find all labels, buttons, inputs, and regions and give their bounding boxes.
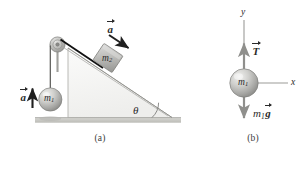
label-tension: T <box>252 46 260 57</box>
pulley <box>50 37 65 52</box>
label-mass-m1: m1 <box>44 94 54 104</box>
label-acceleration-m1: a <box>20 92 27 103</box>
label-acceleration-m2: a <box>107 24 114 35</box>
label-angle-theta: θ <box>133 105 138 116</box>
label-mass-m2: m2 <box>102 54 112 64</box>
acceleration-arrow-m2 <box>109 35 129 48</box>
label-axis-y: y <box>241 8 245 18</box>
physics-figure <box>0 0 308 169</box>
panel-b <box>230 20 288 118</box>
panel-a <box>33 35 182 123</box>
caption-panel-b: (b) <box>198 133 308 143</box>
caption-panel-a: (a) <box>0 133 200 143</box>
label-axis-x: x <box>291 78 295 88</box>
label-mass-m1-fbd: m1 <box>238 78 248 88</box>
label-weight: m1g <box>253 108 271 120</box>
